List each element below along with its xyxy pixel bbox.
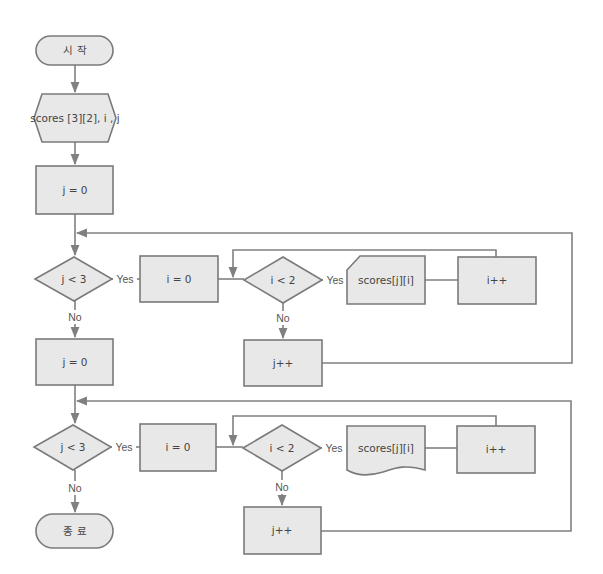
start-terminal: 시 작 xyxy=(36,36,113,65)
output-scores-document: scores[j][i] xyxy=(347,426,425,475)
yes-label-4: Yes xyxy=(325,442,342,454)
cond-i-1-label: i < 2 xyxy=(270,274,295,286)
j-init-1-process: j = 0 xyxy=(36,166,113,214)
j-inc-1-process: j++ xyxy=(244,340,322,386)
cond-i-1-decision: i < 2 xyxy=(244,257,322,303)
j-inc-2-label: j++ xyxy=(271,524,293,536)
flowchart: 시 작 scores [3][2], i , j j = 0 j < 3 Yes… xyxy=(0,0,603,574)
i-init-1-process: i = 0 xyxy=(140,256,218,302)
input-scores-manual-input: scores[j][i] xyxy=(347,256,425,304)
yes-label-3: Yes xyxy=(115,441,132,453)
j-init-2-process: j = 0 xyxy=(36,339,113,385)
i-inc-1-label: i++ xyxy=(487,274,508,286)
yes-label-1: Yes xyxy=(116,273,133,285)
no-label-2: No xyxy=(276,312,290,324)
i-inc-2-label: i++ xyxy=(486,443,507,455)
cond-j-1-decision: j < 3 xyxy=(35,257,112,301)
end-terminal: 종 료 xyxy=(36,514,113,548)
i-init-2-label: i = 0 xyxy=(165,441,190,453)
end-label: 종 료 xyxy=(63,525,86,537)
j-init-1-label: j = 0 xyxy=(61,184,87,196)
cond-j-2-decision: j < 3 xyxy=(34,425,111,470)
i-init-2-process: i = 0 xyxy=(140,424,216,471)
declare-preparation: scores [3][2], i , j xyxy=(30,94,119,142)
declare-label: scores [3][2], i , j xyxy=(30,112,119,124)
cond-i-2-decision: i < 2 xyxy=(243,425,321,471)
input-scores-label: scores[j][i] xyxy=(358,274,414,286)
i-inc-1-process: i++ xyxy=(458,257,536,304)
no-label-3: No xyxy=(68,482,82,494)
cond-i-2-label: i < 2 xyxy=(269,442,294,454)
yes-label-2: Yes xyxy=(326,274,343,286)
connectors-top xyxy=(75,65,572,363)
cond-j-1-label: j < 3 xyxy=(60,273,86,285)
i-init-1-label: i = 0 xyxy=(166,273,191,285)
i-inc-2-process: i++ xyxy=(457,426,535,473)
j-init-2-label: j = 0 xyxy=(61,356,87,368)
j-inc-2-process: j++ xyxy=(244,507,321,554)
start-label: 시 작 xyxy=(63,44,86,56)
cond-j-2-label: j < 3 xyxy=(59,441,85,453)
no-label-4: No xyxy=(275,481,289,493)
no-label-1: No xyxy=(68,311,82,323)
j-inc-1-label: j++ xyxy=(272,357,294,369)
output-scores-label: scores[j][i] xyxy=(358,442,414,454)
